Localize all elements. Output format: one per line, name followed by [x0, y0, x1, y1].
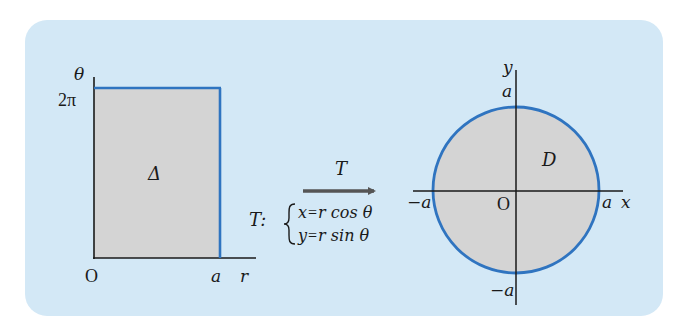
- transformation-map: T T: x=r cos θ y=r sin θ: [249, 158, 374, 245]
- two-pi-tick-label: 2π: [58, 90, 76, 110]
- a-tick-label-left: a: [211, 266, 221, 286]
- disk-plot: y a D −a O a x −a: [407, 57, 631, 305]
- map-prefix: T:: [249, 209, 266, 230]
- x-pos-a-label: a: [602, 192, 612, 212]
- region-delta-label: Δ: [147, 163, 161, 184]
- arrow-label-T: T: [335, 158, 349, 179]
- rectangle-domain-plot: θ 2π Δ O a r: [58, 64, 256, 286]
- origin-label-left: O: [85, 266, 98, 286]
- diagram-canvas: θ 2π Δ O a r T T: x=r cos θ y=r sin θ y …: [0, 0, 687, 329]
- left-brace-icon: [284, 204, 295, 244]
- y-axis-label: y: [502, 57, 513, 77]
- r-axis-label: r: [240, 266, 249, 286]
- equation-y: y=r sin θ: [297, 226, 370, 245]
- theta-axis-label: θ: [74, 64, 84, 84]
- equation-x: x=r cos θ: [298, 203, 373, 222]
- y-neg-a-label: −a: [490, 280, 514, 300]
- y-pos-a-label: a: [502, 81, 512, 101]
- x-neg-a-label: −a: [407, 192, 431, 212]
- origin-label-right: O: [497, 194, 510, 214]
- region-D-label: D: [541, 149, 557, 170]
- x-axis-label: x: [621, 192, 631, 212]
